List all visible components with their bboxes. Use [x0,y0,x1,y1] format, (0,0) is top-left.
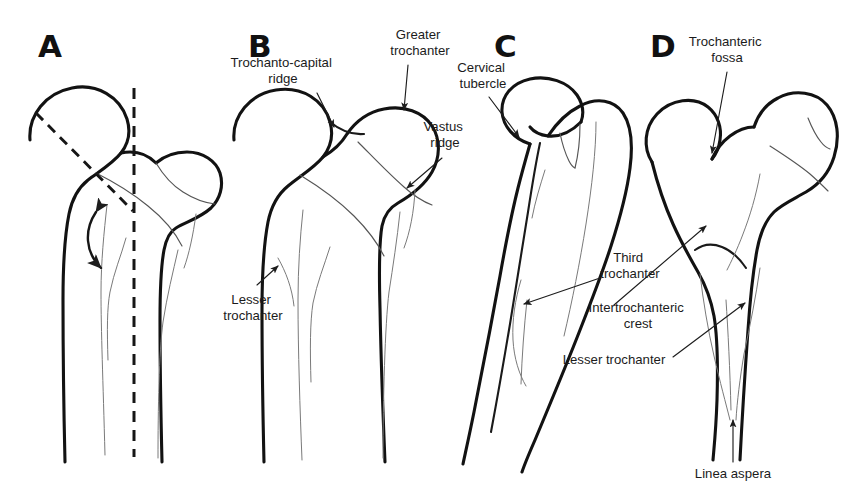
label-linea-aspera: Linea aspera [695,466,772,481]
panel-letter-a: A [38,28,62,64]
panel-letter-c: C [494,28,517,64]
figure-canvas: A B [0,0,852,499]
label-greater-trochanter: Greater trochanter [390,27,450,58]
figure-background [0,0,852,499]
label-lesser-trochanter-b: Lesser trochanter [223,292,283,323]
label-cervical-tubercle: Cervical tubercle [457,60,508,91]
anatomy-figure: A B [0,0,852,499]
panel-letter-d: D [650,28,676,64]
label-lesser-trochanter-c: Lesser trochanter [563,352,666,367]
